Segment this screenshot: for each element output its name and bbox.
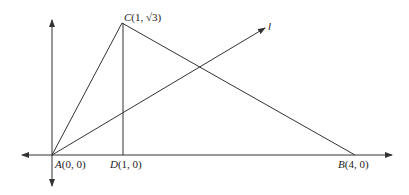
label-point-D: D(1, 0) bbox=[110, 159, 142, 170]
point-C-coords: (1, √3) bbox=[131, 11, 161, 23]
label-line-l: l bbox=[268, 21, 271, 32]
label-point-C: C(1, √3) bbox=[124, 12, 161, 23]
point-D-coords: (1, 0) bbox=[118, 158, 142, 170]
line-l bbox=[52, 28, 265, 155]
point-D-name: D bbox=[110, 158, 118, 170]
label-point-A: A(0, 0) bbox=[55, 159, 86, 170]
point-A-coords: (0, 0) bbox=[62, 158, 86, 170]
label-point-B: B(4, 0) bbox=[338, 159, 369, 170]
segment-CB bbox=[122, 23, 355, 155]
line-l-name: l bbox=[268, 20, 271, 32]
point-A-name: A bbox=[55, 158, 62, 170]
point-B-coords: (4, 0) bbox=[345, 158, 369, 170]
segment-AC bbox=[52, 23, 122, 155]
point-B-name: B bbox=[338, 158, 345, 170]
